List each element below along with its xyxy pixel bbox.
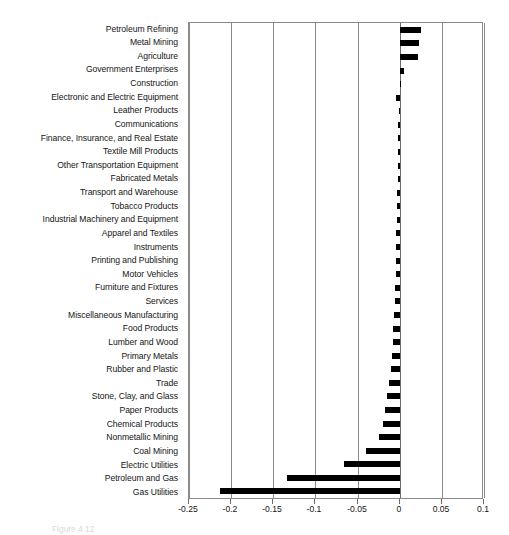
y-axis-label: Agriculture bbox=[0, 49, 183, 63]
y-axis-label: Electric Utilities bbox=[0, 458, 183, 472]
tick-label: 0.05 bbox=[433, 505, 450, 514]
bar bbox=[389, 380, 400, 386]
bar-row bbox=[189, 335, 482, 349]
y-axis-label: Paper Products bbox=[0, 404, 183, 418]
bar bbox=[383, 421, 400, 427]
y-axis-label: Tobacco Products bbox=[0, 199, 183, 213]
y-axis-label: Nonmetallic Mining bbox=[0, 431, 183, 445]
bar-row bbox=[189, 295, 482, 309]
y-axis-label: Services bbox=[0, 295, 183, 309]
bar-row bbox=[189, 145, 482, 159]
y-axis-label: Metal Mining bbox=[0, 36, 183, 50]
bar bbox=[400, 27, 421, 33]
bar bbox=[393, 326, 399, 332]
y-axis-category-labels: Petroleum RefiningMetal MiningAgricultur… bbox=[0, 22, 183, 499]
bar-row bbox=[189, 254, 482, 268]
bar-row bbox=[189, 376, 482, 390]
bar bbox=[396, 230, 399, 236]
y-axis-label: Leather Products bbox=[0, 104, 183, 118]
tick-label: -0.05 bbox=[347, 505, 367, 514]
bar bbox=[396, 258, 400, 264]
bar-row bbox=[189, 50, 482, 64]
bar bbox=[392, 353, 400, 359]
tick-label: 0.1 bbox=[477, 505, 489, 514]
tick-label: -0.1 bbox=[307, 505, 322, 514]
y-axis-label: Fabricated Metals bbox=[0, 172, 183, 186]
y-axis-label: Primary Metals bbox=[0, 349, 183, 363]
y-axis-label: Construction bbox=[0, 77, 183, 91]
bar bbox=[396, 244, 399, 250]
bar-row bbox=[189, 186, 482, 200]
bar bbox=[398, 122, 399, 128]
bar-row bbox=[189, 23, 482, 37]
y-axis-label: Chemical Products bbox=[0, 417, 183, 431]
bar-row bbox=[189, 308, 482, 322]
y-axis-label: Miscellaneous Manufacturing bbox=[0, 308, 183, 322]
y-axis-label: Communications bbox=[0, 117, 183, 131]
y-axis-label: Rubber and Plastic bbox=[0, 363, 183, 377]
bar bbox=[395, 285, 400, 291]
y-axis-label: Transport and Warehouse bbox=[0, 186, 183, 200]
bar-row bbox=[189, 104, 482, 118]
y-axis-label: Petroleum Refining bbox=[0, 22, 183, 36]
bar-row bbox=[189, 159, 482, 173]
bar-row bbox=[189, 200, 482, 214]
bar-row bbox=[189, 132, 482, 146]
bar bbox=[398, 135, 399, 141]
bar-row bbox=[189, 64, 482, 78]
gridline bbox=[484, 23, 485, 498]
bar-row bbox=[189, 403, 482, 417]
bar bbox=[344, 461, 400, 467]
tick-label: -0.2 bbox=[223, 505, 238, 514]
bar-row bbox=[189, 349, 482, 363]
tick-label: -0.25 bbox=[178, 505, 198, 514]
plot-area bbox=[188, 22, 483, 499]
y-axis-label: Finance, Insurance, and Real Estate bbox=[0, 131, 183, 145]
bar-row bbox=[189, 213, 482, 227]
bar-row bbox=[189, 267, 482, 281]
y-axis-label: Printing and Publishing bbox=[0, 254, 183, 268]
bar bbox=[379, 434, 400, 440]
bar-row bbox=[189, 362, 482, 376]
y-axis-label: Furniture and Fixtures bbox=[0, 281, 183, 295]
bar-row bbox=[189, 77, 482, 91]
bar bbox=[220, 488, 400, 494]
y-axis-label: Coal Mining bbox=[0, 444, 183, 458]
bar bbox=[287, 475, 400, 481]
bar-row bbox=[189, 227, 482, 241]
y-axis-label: Petroleum and Gas bbox=[0, 472, 183, 486]
bar-row bbox=[189, 444, 482, 458]
bar bbox=[398, 176, 400, 182]
bar bbox=[400, 68, 404, 74]
y-axis-label: Food Products bbox=[0, 322, 183, 336]
bar-row bbox=[189, 172, 482, 186]
bar-row bbox=[189, 471, 482, 485]
y-axis-label: Other Transportation Equipment bbox=[0, 158, 183, 172]
bar-row bbox=[189, 485, 482, 499]
y-axis-label: Government Enterprises bbox=[0, 63, 183, 77]
bar bbox=[394, 312, 399, 318]
bar bbox=[396, 271, 400, 277]
y-axis-label: Lumber and Wood bbox=[0, 335, 183, 349]
bar-row bbox=[189, 118, 482, 132]
bar bbox=[395, 298, 400, 304]
bar-row bbox=[189, 240, 482, 254]
y-axis-label: Apparel and Textiles bbox=[0, 226, 183, 240]
y-axis-label: Motor Vehicles bbox=[0, 267, 183, 281]
bar bbox=[397, 217, 400, 223]
bar-row bbox=[189, 390, 482, 404]
bar-row bbox=[189, 417, 482, 431]
bar bbox=[400, 81, 401, 87]
bar-row bbox=[189, 281, 482, 295]
y-axis-label: Trade bbox=[0, 376, 183, 390]
y-axis-label: Industrial Machinery and Equipment bbox=[0, 213, 183, 227]
y-axis-label: Stone, Clay, and Glass bbox=[0, 390, 183, 404]
bar-series bbox=[189, 23, 482, 498]
bar-row bbox=[189, 458, 482, 472]
bar bbox=[385, 407, 400, 413]
bar-row bbox=[189, 91, 482, 105]
y-axis-label: Textile Mill Products bbox=[0, 145, 183, 159]
tick-label: -0.15 bbox=[262, 505, 282, 514]
y-axis-label: Instruments bbox=[0, 240, 183, 254]
bar-row bbox=[189, 430, 482, 444]
